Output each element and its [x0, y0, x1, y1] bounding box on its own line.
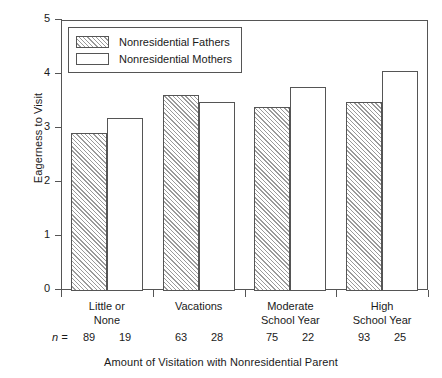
- bar-fathers-2: [163, 95, 199, 291]
- legend-swatch-hatched-icon: [76, 36, 109, 48]
- legend-swatch-white-icon: [76, 53, 109, 65]
- bar-mothers-1: [107, 118, 143, 291]
- n-equals-label: n =: [52, 331, 68, 343]
- x-tick-mark: [153, 290, 154, 297]
- bar-mothers-3: [290, 87, 326, 291]
- n-value-fathers-2: 63: [168, 331, 194, 343]
- y-tick-label: 4: [24, 66, 50, 78]
- x-tick-mark: [428, 290, 429, 297]
- legend-item-mothers: Nonresidential Mothers: [76, 50, 232, 67]
- legend: Nonresidential Fathers Nonresidential Mo…: [68, 27, 242, 73]
- x-tick-mark: [245, 290, 246, 297]
- x-category-label-line: High: [322, 299, 442, 313]
- n-value-fathers-1: 89: [76, 331, 102, 343]
- x-category-label-4: HighSchool Year: [322, 299, 442, 327]
- y-tick-mark: [55, 73, 62, 74]
- y-tick-label: 0: [24, 282, 50, 294]
- y-tick-mark: [55, 127, 62, 128]
- y-tick-mark: [55, 235, 62, 236]
- y-tick-label: 3: [24, 120, 50, 132]
- x-axis-title: Amount of Visitation with Nonresidential…: [0, 356, 442, 368]
- x-category-label-line: None: [47, 313, 167, 327]
- n-value-mothers-2: 28: [204, 331, 230, 343]
- bar-fathers-4: [346, 102, 382, 291]
- chart-figure: Eagerness to Visit 012345 Little orNoneV…: [0, 0, 442, 378]
- bar-fathers-3: [254, 107, 290, 291]
- n-value-mothers-3: 22: [295, 331, 321, 343]
- bar-mothers-4: [382, 71, 418, 291]
- sample-size-row: n = 8919632875229325: [0, 331, 442, 347]
- x-tick-mark: [61, 290, 62, 297]
- y-tick-mark: [55, 19, 62, 20]
- bar-fathers-1: [71, 133, 107, 291]
- y-tick-label: 1: [24, 228, 50, 240]
- legend-label-mothers: Nonresidential Mothers: [119, 53, 232, 65]
- bar-mothers-2: [199, 102, 235, 291]
- n-value-mothers-4: 25: [387, 331, 413, 343]
- x-category-label-line: School Year: [322, 313, 442, 327]
- y-tick-label: 5: [24, 12, 50, 24]
- y-tick-label: 2: [24, 174, 50, 186]
- n-value-mothers-1: 19: [112, 331, 138, 343]
- x-tick-mark: [336, 290, 337, 297]
- n-value-fathers-3: 75: [259, 331, 285, 343]
- legend-item-fathers: Nonresidential Fathers: [76, 33, 232, 50]
- legend-label-fathers: Nonresidential Fathers: [119, 36, 230, 48]
- y-tick-mark: [55, 181, 62, 182]
- n-value-fathers-4: 93: [351, 331, 377, 343]
